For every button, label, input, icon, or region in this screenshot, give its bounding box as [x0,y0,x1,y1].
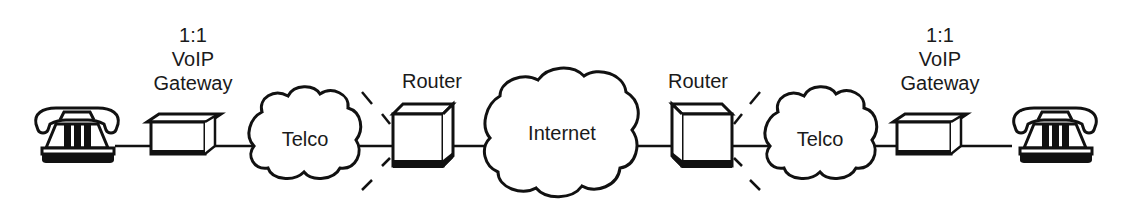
voip-network-diagram: 1:1 VoIP Gateway Telco Router Internet [0,0,1127,204]
router-right: Router [668,70,760,190]
router-left-label: Router [402,70,462,92]
gateway-left-label-line2: VoIP [172,48,214,70]
gateway-left-label-line1: 1:1 [179,24,207,46]
telco-cloud-right: Telco [765,87,877,179]
gateway-box-right-icon [893,114,967,155]
telco-right-label: Telco [797,128,844,150]
telco-left-label: Telco [282,128,329,150]
gateway-left-label-line3: Gateway [154,72,233,94]
signal-rays-right-router-icon [734,92,760,190]
gateway-right-label-line1: 1:1 [926,24,954,46]
router-box-right-icon [672,104,732,168]
gateway-right-label-line2: VoIP [919,48,961,70]
voip-gateway-left: 1:1 VoIP Gateway [147,24,232,155]
router-right-label: Router [668,70,728,92]
gateway-right-label-line3: Gateway [901,72,980,94]
telephone-left-icon [36,108,119,163]
gateway-box-left-icon [147,114,221,155]
router-box-left-icon [393,104,453,168]
voip-gateway-right: 1:1 VoIP Gateway [893,24,979,155]
internet-label: Internet [528,122,596,144]
signal-rays-left-router-icon [362,92,390,190]
telco-cloud-left: Telco [249,87,361,179]
telephone-right-icon [1014,108,1097,163]
router-left: Router [362,70,462,190]
internet-cloud: Internet [484,68,638,197]
